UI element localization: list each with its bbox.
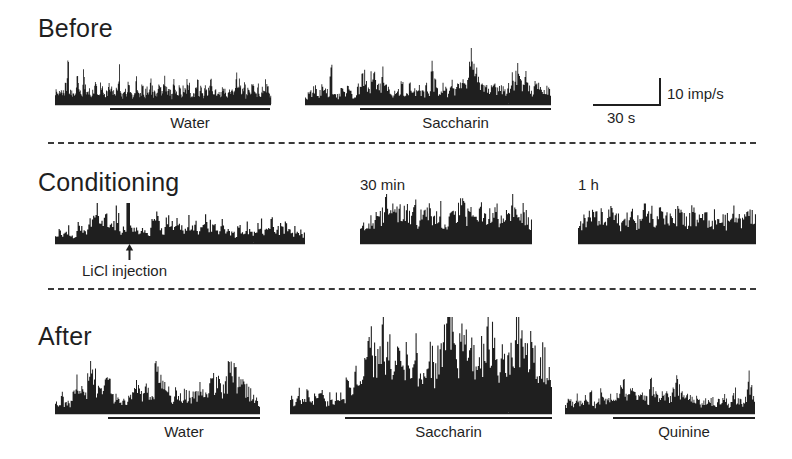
scale-bar-vertical <box>659 78 661 105</box>
stimulus-label-before-saccharin: Saccharin <box>386 114 526 131</box>
stimulus-label-before-water: Water <box>120 114 260 131</box>
histogram-before-saccharin <box>305 47 555 107</box>
histogram-bars <box>565 370 755 413</box>
scale-bar-horizontal <box>593 104 661 106</box>
time-label-1h: 1 h <box>578 176 599 193</box>
section-divider-2 <box>48 288 756 290</box>
stimulus-label-after-quinine: Quinine <box>614 423 754 440</box>
figure-canvas: Before Conditioning After 30 min 1 h 10 … <box>0 0 792 459</box>
spike-train-after-quinine <box>565 366 759 416</box>
histogram-conditioning-30min <box>360 193 536 246</box>
histogram-bars <box>305 48 551 104</box>
histogram-bars <box>55 361 260 413</box>
stimulus-bar-after-quinine <box>613 417 755 419</box>
scale-bar-vertical-label: 10 imp/s <box>667 85 724 102</box>
section-divider-1 <box>48 142 756 144</box>
stimulus-label-after-water: Water <box>114 423 254 440</box>
histogram-conditioning-1h <box>578 198 760 246</box>
row-title-after: After <box>38 322 92 351</box>
histogram-bars <box>55 60 271 104</box>
stimulus-bar-before-water <box>110 108 270 110</box>
spike-train-conditioning-30min <box>360 193 536 246</box>
histogram-bars <box>578 203 756 243</box>
histogram-after-saccharin <box>290 316 556 416</box>
stimulus-bar-after-saccharin <box>345 417 552 419</box>
arrow-up-icon <box>122 244 138 261</box>
histogram-bars <box>290 317 552 413</box>
row-title-conditioning: Conditioning <box>38 168 179 197</box>
histogram-after-quinine <box>565 366 759 416</box>
histogram-after-water <box>55 360 264 416</box>
spike-train-conditioning-1h <box>578 198 760 246</box>
histogram-conditioning-licl <box>55 202 309 246</box>
stimulus-bar-after-water <box>108 417 260 419</box>
spike-train-conditioning-licl <box>55 202 309 246</box>
stimulus-label-after-saccharin: Saccharin <box>379 423 519 440</box>
row-title-before: Before <box>38 14 113 43</box>
spike-train-after-saccharin <box>290 316 556 416</box>
histogram-before-water <box>55 59 275 107</box>
spike-train-before-water <box>55 59 275 107</box>
licl-injection-label: LiCl injection <box>82 262 167 279</box>
histogram-bars <box>360 194 532 243</box>
scale-bar-horizontal-label: 30 s <box>607 109 635 126</box>
time-label-30min: 30 min <box>360 176 405 193</box>
spike-train-after-water <box>55 360 264 416</box>
histogram-bars <box>55 203 305 243</box>
spike-train-before-saccharin <box>305 47 555 107</box>
stimulus-bar-before-saccharin <box>360 108 551 110</box>
